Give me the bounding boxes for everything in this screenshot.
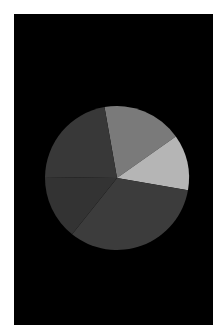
chart-frame xyxy=(14,14,213,325)
pie-slice-5 xyxy=(45,107,117,178)
pie-chart xyxy=(14,14,213,325)
